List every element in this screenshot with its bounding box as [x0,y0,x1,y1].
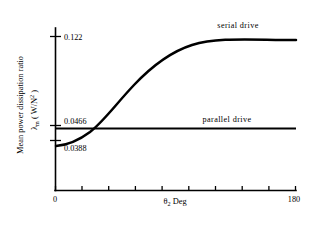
series-line-serial-drive [56,39,296,146]
y-tick-label: 0.122 [64,33,82,42]
power-dissipation-chart: Mean power dissipation ratio λm ( W/N2 )… [0,0,309,226]
y-axis-label-line2: λm ( W/N2 ) [28,90,40,130]
series-annotation-serial-drive: serial drive [217,21,258,30]
y-tick-label: 0.0466 [64,117,87,126]
x-tick-label-min: 0 [53,195,57,204]
chart-figure: Mean power dissipation ratio λm ( W/N2 )… [0,0,309,226]
y-units-open: ( W/N [30,98,39,119]
y-units-close: ) [30,90,39,95]
y-axis-label: Mean power dissipation ratio λm ( W/N2 ) [16,56,40,154]
x-tick-label-max: 180 [288,195,300,204]
y-axis-label-line1: Mean power dissipation ratio [16,56,25,154]
x-axis-label: θ2 Deg [163,197,187,207]
series-annotation-parallel-drive: parallel drive [202,115,251,124]
